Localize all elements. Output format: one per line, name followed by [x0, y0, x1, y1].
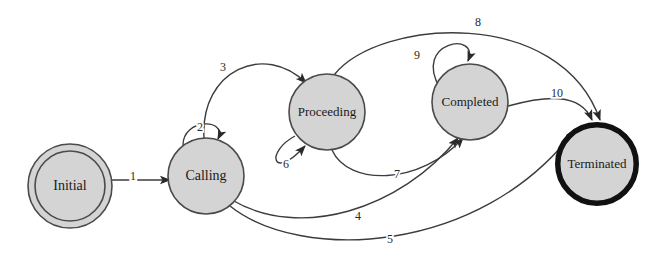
state-label-initial: Initial: [53, 178, 87, 193]
transition-label-2: 2: [197, 120, 203, 134]
state-node-proceeding[interactable]: Proceeding: [289, 74, 365, 150]
state-node-initial[interactable]: Initial: [28, 144, 112, 228]
transition-label-4: 4: [355, 209, 361, 223]
transition-edge-10: [508, 98, 592, 120]
state-label-calling: Calling: [185, 168, 226, 183]
state-node-calling[interactable]: Calling: [168, 138, 244, 214]
transition-edge-4: [232, 138, 458, 218]
transition-label-1: 1: [130, 169, 136, 183]
transition-label-9: 9: [414, 48, 420, 62]
transition-label-8: 8: [475, 15, 481, 29]
transition-label-5: 5: [387, 232, 393, 246]
state-node-terminated[interactable]: Terminated: [558, 125, 637, 204]
transition-label-6: 6: [283, 157, 289, 171]
transition-label-7: 7: [394, 167, 400, 181]
state-label-terminated: Terminated: [567, 156, 627, 171]
state-diagram: InitialCallingProceedingCompletedTermina…: [0, 0, 671, 262]
state-label-completed: Completed: [441, 94, 499, 109]
transition-label-10: 10: [551, 86, 563, 100]
states-layer: InitialCallingProceedingCompletedTermina…: [28, 64, 636, 228]
state-label-proceeding: Proceeding: [298, 104, 357, 119]
state-node-completed[interactable]: Completed: [432, 64, 508, 140]
state-diagram-canvas: InitialCallingProceedingCompletedTermina…: [0, 0, 671, 262]
transition-label-3: 3: [220, 60, 226, 74]
